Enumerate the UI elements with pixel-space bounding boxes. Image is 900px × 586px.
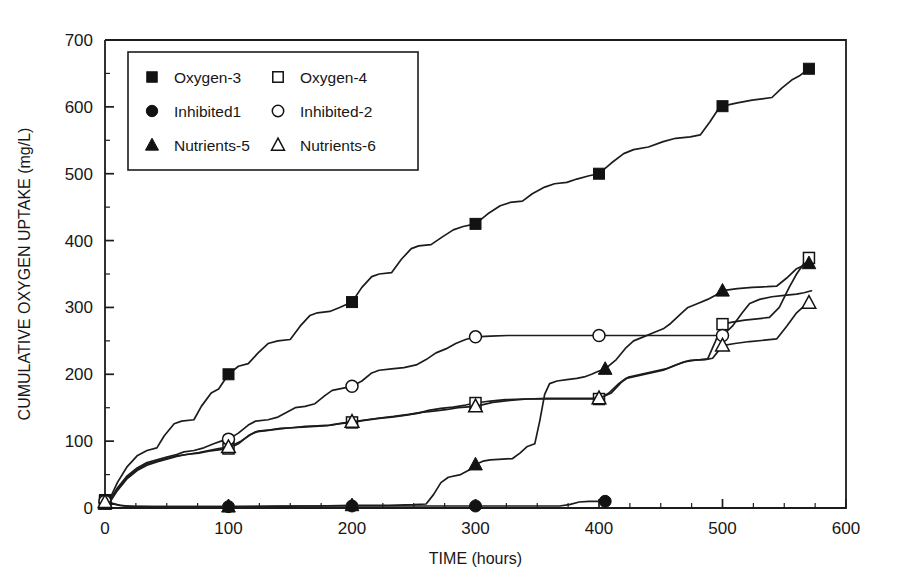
filled-square-icon (147, 72, 157, 82)
series-marker (594, 168, 605, 179)
oxygen-uptake-line-chart: Oxygen-3Oxygen-4Inhibited1Inhibited-2Nut… (0, 0, 900, 586)
x-axis-title: TIME (hours) (429, 550, 522, 567)
y-tick-label: 100 (65, 432, 93, 451)
y-tick-label: 0 (84, 499, 93, 518)
series-marker (470, 331, 482, 343)
y-tick-label: 500 (65, 165, 93, 184)
series-marker (223, 369, 234, 380)
series-marker (803, 63, 814, 74)
filled-circle-icon (470, 500, 482, 512)
chart-figure: Oxygen-3Oxygen-4Inhibited1Inhibited-2Nut… (0, 0, 900, 586)
filled-circle-icon (599, 495, 611, 507)
series-marker (272, 105, 283, 116)
open-circle-icon (346, 380, 358, 392)
open-square-icon (717, 319, 728, 330)
open-square-icon (273, 72, 283, 82)
x-tick-label: 100 (214, 519, 242, 538)
legend-label: Inhibited-2 (300, 103, 372, 120)
series-marker (470, 218, 481, 229)
y-tick-label: 600 (65, 98, 93, 117)
open-circle-icon (593, 330, 605, 342)
series-marker (346, 380, 358, 392)
series-marker (599, 495, 611, 507)
series-marker (717, 101, 728, 112)
y-tick-label: 700 (65, 31, 93, 50)
y-tick-label: 400 (65, 232, 93, 251)
legend-label: Nutrients-6 (300, 137, 376, 154)
x-tick-label: 300 (461, 519, 489, 538)
filled-square-icon (803, 63, 814, 74)
open-circle-icon (470, 331, 482, 343)
filled-square-icon (717, 101, 728, 112)
x-tick-label: 0 (100, 519, 109, 538)
open-circle-icon (272, 105, 283, 116)
filled-circle-icon (146, 105, 157, 116)
series-marker (593, 330, 605, 342)
x-tick-label: 200 (338, 519, 366, 538)
series-marker (717, 319, 728, 330)
y-tick-label: 300 (65, 298, 93, 317)
y-tick-label: 200 (65, 365, 93, 384)
y-axis-title: CUMULATIVE OXYGEN UPTAKE (mg/L) (16, 128, 33, 421)
x-tick-label: 600 (832, 519, 860, 538)
series-marker (347, 297, 358, 308)
series-marker (273, 72, 283, 82)
x-tick-label: 400 (585, 519, 613, 538)
legend-label: Oxygen-3 (174, 69, 241, 86)
legend-label: Inhibited1 (174, 103, 241, 120)
filled-square-icon (594, 168, 605, 179)
filled-square-icon (347, 297, 358, 308)
x-tick-label: 500 (708, 519, 736, 538)
series-marker (146, 105, 157, 116)
series-marker (470, 500, 482, 512)
chart-legend: Oxygen-3Oxygen-4Inhibited1Inhibited-2Nut… (128, 52, 418, 170)
legend-label: Oxygen-4 (300, 69, 368, 86)
legend-label: Nutrients-5 (174, 137, 250, 154)
filled-square-icon (470, 218, 481, 229)
series-marker (147, 72, 157, 82)
filled-square-icon (223, 369, 234, 380)
